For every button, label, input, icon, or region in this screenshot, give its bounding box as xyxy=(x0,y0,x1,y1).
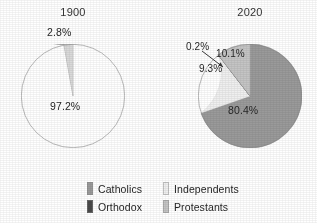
legend-item-protestants: Protestants xyxy=(163,199,273,215)
slice-label-2020-orthodox: 0.2% xyxy=(186,41,209,52)
slice-label-1900-protestants: 2.8% xyxy=(47,26,71,38)
legend-swatch-orthodox xyxy=(87,200,93,213)
slice-label-2020-independents: 9.3% xyxy=(199,63,222,74)
chart-title-2020: 2020 xyxy=(223,6,277,18)
legend-item-orthodox: Orthodox xyxy=(87,199,163,215)
legend-swatch-catholics xyxy=(87,182,93,195)
chart-title-1900: 1900 xyxy=(46,6,100,18)
legend-label-protestants: Protestants xyxy=(174,201,228,213)
chart-legend: Catholics Independents Orthodox Protesta… xyxy=(87,180,277,216)
legend-label-independents: Independents xyxy=(174,183,239,195)
legend-item-independents: Independents xyxy=(163,181,273,197)
slice-1900-protestants xyxy=(64,44,73,96)
legend-label-orthodox: Orthodox xyxy=(98,201,142,213)
legend-label-catholics: Catholics xyxy=(98,183,142,195)
slice-label-1900-catholics: 97.2% xyxy=(50,100,80,112)
pie-1900 xyxy=(21,44,125,148)
legend-swatch-protestants xyxy=(163,200,169,213)
pie-chart-figure: 1900 2.8% 97.2% 2020 0.2% 10.1 xyxy=(0,0,317,223)
slice-label-2020-catholics: 80.4% xyxy=(228,104,258,116)
legend-swatch-independents xyxy=(163,182,169,195)
legend-item-catholics: Catholics xyxy=(87,181,163,197)
pie-2020 xyxy=(198,44,302,148)
slice-label-2020-protestants: 10.1% xyxy=(216,48,245,59)
